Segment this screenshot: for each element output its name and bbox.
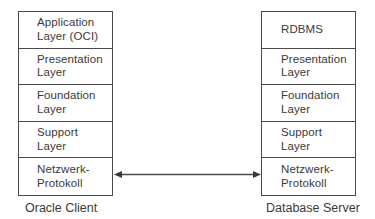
bidirectional-arrow-icon — [0, 0, 375, 219]
arrowhead-left-icon — [114, 171, 122, 178]
arrowhead-right-icon — [253, 171, 261, 178]
oracle-client-caption: Oracle Client — [25, 201, 97, 215]
database-server-caption: Database Server — [266, 201, 360, 215]
